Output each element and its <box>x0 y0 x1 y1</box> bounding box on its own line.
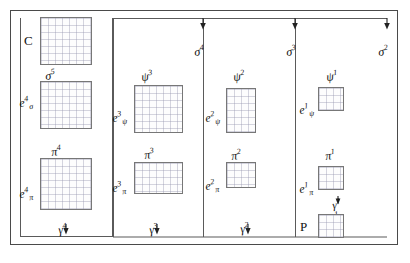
grid-column-3-e-pi <box>134 162 183 194</box>
label-sigma-3: σ3 <box>286 45 297 58</box>
label-gamma-2: γ2 <box>240 222 250 235</box>
label-psi-1: ψ1 <box>326 70 339 83</box>
label-psi-2: ψ2 <box>233 70 246 83</box>
grid-column-4-top <box>40 17 92 65</box>
label-e-pi-4: e4π <box>19 186 34 200</box>
label-e-pi-2: e2π <box>205 178 220 192</box>
label-P: P <box>300 220 307 233</box>
grid-column-2-e-pi <box>226 162 256 188</box>
label-psi-3: ψ3 <box>141 70 154 83</box>
label-pi-3: π3 <box>144 148 155 161</box>
grid-column-4-e-pi <box>40 158 92 210</box>
label-gamma-3: γ3 <box>149 223 159 236</box>
label-pi-1: π1 <box>325 149 336 162</box>
grid-column-1-P <box>318 214 344 238</box>
grid-column-3-e-psi <box>134 85 183 133</box>
diagram-canvas: C σ5 e4σ π4 e4π γ4 σ4 ψ3 e3ψ π3 e3π γ3 <box>0 0 410 263</box>
grid-column-1-e-pi <box>318 166 344 190</box>
label-e-sigma-4: e4σ <box>19 95 34 109</box>
label-C: C <box>24 34 33 47</box>
label-e-psi-2-sub: ψ <box>215 117 221 127</box>
label-e-psi-3: e3ψ <box>112 110 128 124</box>
grid-column-2-e-psi <box>226 88 256 133</box>
grid-column-1-e-psi <box>318 87 344 111</box>
label-sigma-4: σ4 <box>194 45 205 58</box>
label-e-pi-1: e1π <box>299 181 314 195</box>
label-gamma-4: γ4 <box>58 223 68 236</box>
label-e-psi-1-sub: ψ <box>309 109 315 119</box>
label-pi-4: π4 <box>51 145 62 158</box>
label-e-psi-3-sub: ψ <box>122 117 128 127</box>
label-e-psi-2: e2ψ <box>205 110 221 124</box>
label-e-psi-1: e1ψ <box>299 102 315 116</box>
label-sigma-2: σ2 <box>378 45 389 58</box>
label-e-pi-3: e3π <box>112 180 127 194</box>
label-pi-2: π2 <box>231 149 242 162</box>
grid-column-4-e-sigma <box>40 81 92 129</box>
